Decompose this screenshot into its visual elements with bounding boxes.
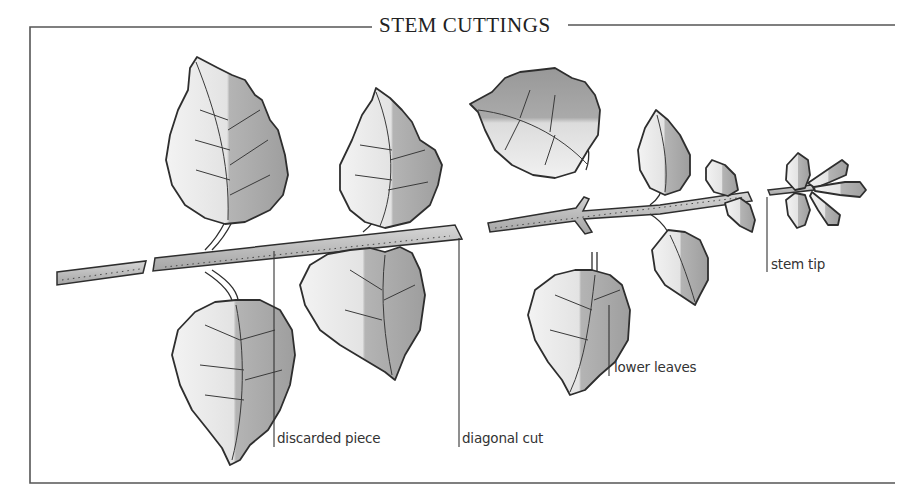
frame (30, 25, 895, 483)
upper-stem (488, 192, 752, 234)
label-stem-tip: stem tip (771, 256, 825, 272)
leaf-lower-4 (652, 230, 708, 305)
leaf-upper-1 (166, 57, 288, 224)
diagram-stage: STEM CUTTINGS discarded piece diagonal c… (0, 0, 900, 504)
label-discarded-piece: discarded piece (277, 430, 380, 446)
stem-cuttings-illustration (0, 0, 900, 504)
leaf-small-2 (725, 198, 755, 232)
discarded-stem-piece (57, 261, 146, 285)
tip-bud-3 (810, 192, 840, 225)
tip-leaf-1 (786, 153, 810, 190)
tip-leaf-2 (786, 193, 810, 228)
diagram-title: STEM CUTTINGS (373, 13, 557, 37)
leaf-small-1 (706, 160, 738, 196)
leaf-upper-4 (638, 110, 690, 195)
label-diagonal-cut: diagonal cut (462, 430, 543, 446)
leaf-upper-3 (470, 68, 600, 178)
leaf-lower-2 (300, 247, 425, 380)
leaf-lower-3 (528, 270, 630, 395)
label-lower-leaves: lower leaves (614, 359, 696, 375)
